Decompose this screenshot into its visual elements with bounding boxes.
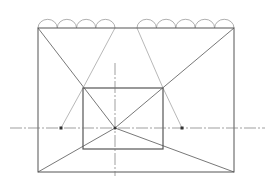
arc-right xyxy=(156,19,175,28)
measure-line-right xyxy=(137,28,163,88)
outer-rectangle xyxy=(38,28,234,172)
measure-line-right xyxy=(163,88,182,128)
arc-left xyxy=(96,19,115,28)
arc-right xyxy=(195,19,214,28)
orthogonal-line xyxy=(38,128,115,172)
arc-right xyxy=(215,19,234,28)
arc-right xyxy=(176,19,195,28)
orthogonal-line xyxy=(38,28,115,128)
measuring-point-marker xyxy=(181,127,184,130)
measurement-arcs xyxy=(38,19,234,28)
vanishing-point-marker xyxy=(114,127,117,130)
construction-lines xyxy=(38,28,234,172)
orthogonal-line xyxy=(115,128,234,172)
perspective-diagram xyxy=(0,0,274,187)
measure-line-left xyxy=(61,88,83,128)
center-axes xyxy=(10,63,265,176)
arc-right xyxy=(137,19,156,28)
arc-left xyxy=(57,19,76,28)
rectangles xyxy=(38,28,234,172)
arc-left xyxy=(38,19,57,28)
measuring-point-marker xyxy=(60,127,63,130)
measure-line-left xyxy=(83,28,115,88)
arc-left xyxy=(77,19,96,28)
